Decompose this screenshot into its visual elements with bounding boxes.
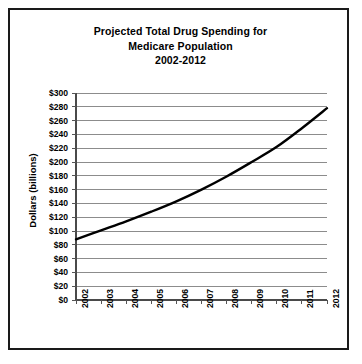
y-axis-tick-label: $60 [24,254,68,264]
x-axis-tick-label: 2005 [155,289,165,308]
y-axis-tick-label: $220 [24,143,68,153]
y-axis-tick-label: $0 [24,295,68,305]
y-axis-tick-label: $300 [24,88,68,98]
plot-area: $0$20$40$60$80$100$120$140$160$180$200$2… [10,10,351,352]
x-axis-tick-label: 2004 [130,289,140,308]
y-axis-tick-label: $260 [24,116,68,126]
x-axis-tick-label: 2010 [280,289,290,308]
data-line-series-1 [76,108,327,239]
y-axis-tick-label: $140 [24,198,68,208]
y-axis-tick-label: $280 [24,102,68,112]
y-axis-tick-label: $100 [24,226,68,236]
y-axis-tick-label: $240 [24,129,68,139]
x-axis-tick-label: 2009 [255,289,265,308]
y-axis-tick-label: $80 [24,240,68,250]
chart-figure: Projected Total Drug Spending for Medica… [0,0,362,364]
x-axis-tick-label: 2003 [105,289,115,308]
y-axis-tick-label: $40 [24,267,68,277]
x-axis-tick-label: 2006 [180,289,190,308]
y-axis-tick-label: $120 [24,212,68,222]
x-axis-tick-label: 2002 [80,289,90,308]
axis-lines [76,93,327,300]
y-axis-tick-label: $20 [24,281,68,291]
y-axis-tick-label: $160 [24,185,68,195]
x-axis-tick-label: 2008 [230,289,240,308]
x-axis-tick-label: 2007 [205,289,215,308]
chart-border-frame: Projected Total Drug Spending for Medica… [8,8,349,350]
x-axis-tick-label: 2011 [305,289,315,308]
y-axis-tick-label: $200 [24,157,68,167]
x-axis-tick-label: 2012 [331,289,341,308]
y-axis-tick-label: $180 [24,171,68,181]
